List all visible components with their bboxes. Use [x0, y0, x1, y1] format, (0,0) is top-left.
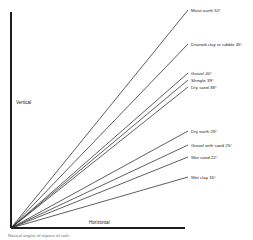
soil-angle-label: Wet clay 16° — [191, 175, 216, 180]
soil-angle-label: Gravel with sand 25° — [191, 143, 232, 148]
soil-angle-label: Moist earth 52° — [191, 8, 221, 13]
soil-angle-label: Dry earth 28° — [191, 129, 217, 134]
soil-angle-ray — [11, 10, 188, 228]
diagram-caption: Natural angles of repose of soils — [8, 233, 69, 238]
soil-angle-label: Shingle 39° — [191, 78, 214, 83]
soil-angle-label: Dry sand 38° — [191, 85, 217, 90]
soil-angle-ray — [11, 131, 188, 228]
angle-of-repose-diagram: Moist earth 52°Drained clay or rubble 45… — [0, 0, 253, 240]
angle-of-repose-chart: Moist earth 52°Drained clay or rubble 45… — [0, 0, 253, 240]
vertical-axis-label: Vertical — [16, 100, 31, 105]
soil-angle-ray — [11, 157, 188, 228]
soil-angle-label: Wet sand 22° — [191, 155, 218, 160]
soil-angle-ray — [11, 80, 188, 228]
soil-angle-ray — [11, 73, 188, 228]
soil-angle-ray — [11, 44, 188, 228]
horizontal-axis-label: Horizontal — [89, 220, 110, 225]
soil-angle-label: Drained clay or rubble 45° — [191, 42, 243, 47]
soil-angle-label: Gravel 40° — [191, 71, 212, 76]
soil-angle-rays — [11, 10, 188, 228]
soil-angle-labels: Moist earth 52°Drained clay or rubble 45… — [191, 8, 243, 180]
